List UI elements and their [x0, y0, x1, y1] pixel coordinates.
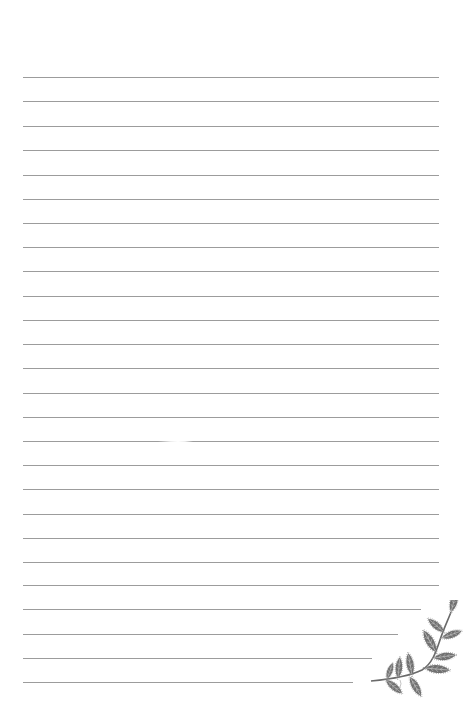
ruled-line: [23, 150, 439, 151]
ruled-line: [23, 199, 439, 200]
ruled-line: [23, 562, 439, 563]
ruled-line: [23, 393, 439, 394]
ruled-line: [23, 514, 439, 515]
ruled-line: [23, 538, 439, 539]
ruled-line: [23, 344, 439, 345]
ruled-line: [23, 658, 372, 659]
ruled-line: [23, 320, 439, 321]
ruled-line: [23, 101, 439, 102]
ruled-line: [23, 175, 439, 176]
ruled-line: [23, 489, 439, 490]
ruled-line: [23, 126, 439, 127]
ruled-line: [23, 368, 439, 369]
ruled-line: [23, 634, 398, 635]
ruled-line: [23, 682, 353, 683]
ruled-line: [23, 417, 439, 418]
lined-paper-page: [0, 0, 470, 717]
ruled-line: [23, 585, 439, 586]
ruled-line: [23, 77, 439, 78]
ruled-line: [23, 247, 439, 248]
ruled-line: [23, 441, 439, 442]
ruled-line: [23, 271, 439, 272]
leaf-sprig-icon: [362, 600, 467, 705]
ruled-line: [23, 296, 439, 297]
ruled-line: [23, 223, 439, 224]
ruled-line: [23, 465, 439, 466]
